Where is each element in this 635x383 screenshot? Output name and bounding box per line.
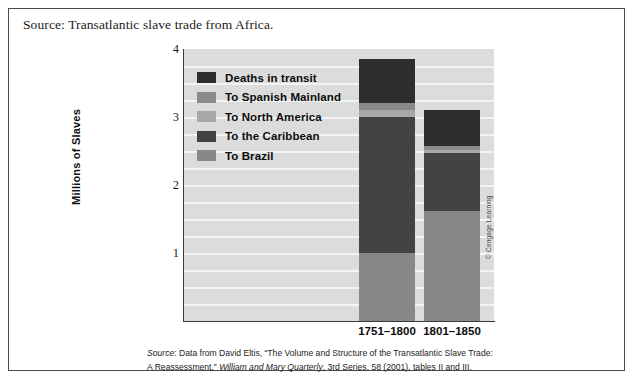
chart-legend: Deaths in transitTo Spanish MainlandTo N… bbox=[197, 68, 367, 166]
legend-item: Deaths in transit bbox=[197, 68, 367, 88]
legend-label: To Spanish Mainland bbox=[225, 91, 341, 103]
figure-frame: Source: Transatlantic slave trade from A… bbox=[8, 8, 625, 371]
y-axis-title: Millions of Slaves bbox=[70, 77, 82, 237]
bar-segment bbox=[359, 110, 415, 117]
footnote-line-1: Source: Data from David Eltis, “The Volu… bbox=[147, 346, 567, 360]
bar-segment bbox=[424, 110, 480, 146]
footnote-line-1-text: : Data from David Eltis, “The Volume and… bbox=[174, 348, 493, 358]
legend-label: Deaths in transit bbox=[225, 72, 317, 84]
legend-swatch-icon bbox=[197, 72, 216, 83]
legend-item: To the Caribbean bbox=[197, 127, 367, 147]
y-axis-tick-labels: 4321 bbox=[155, 9, 179, 383]
figure-footnote: Source: Data from David Eltis, “The Volu… bbox=[147, 346, 567, 374]
legend-swatch-icon bbox=[197, 150, 216, 161]
y-axis-line bbox=[183, 49, 184, 322]
y-tick-label: 2 bbox=[157, 178, 179, 193]
legend-swatch-icon bbox=[197, 111, 216, 122]
x-axis-line bbox=[183, 321, 495, 322]
bar-segment bbox=[424, 153, 480, 211]
bar-segment bbox=[359, 103, 415, 110]
copyright-notice: © Cengage Learning bbox=[485, 195, 492, 259]
legend-swatch-icon bbox=[197, 92, 216, 103]
legend-label: To the Caribbean bbox=[225, 130, 320, 142]
footnote-line-2-post: , 3rd Series, 58 (2001), tables II and I… bbox=[323, 362, 472, 372]
bar-segment bbox=[424, 211, 480, 321]
bar-group bbox=[424, 110, 480, 321]
y-tick-label: 1 bbox=[157, 246, 179, 261]
legend-item: To Spanish Mainland bbox=[197, 88, 367, 108]
bar-segment bbox=[359, 117, 415, 253]
footnote-line-2: A Reassessment,” William and Mary Quarte… bbox=[147, 360, 567, 374]
x-tick-label: 1801–1850 bbox=[407, 325, 497, 337]
bar-segment bbox=[359, 253, 415, 321]
legend-item: To North America bbox=[197, 107, 367, 127]
y-tick-label: 4 bbox=[157, 42, 179, 57]
bar-segment bbox=[359, 59, 415, 103]
legend-label: To Brazil bbox=[225, 150, 274, 162]
legend-label: To North America bbox=[225, 111, 322, 123]
legend-swatch-icon bbox=[197, 131, 216, 142]
footnote-journal-title: William and Mary Quarterly bbox=[219, 362, 323, 372]
legend-item: To Brazil bbox=[197, 146, 367, 166]
bar-group bbox=[359, 59, 415, 321]
footnote-source-label: Source bbox=[147, 348, 174, 358]
y-tick-label: 3 bbox=[157, 110, 179, 125]
figure-caption: Source: Transatlantic slave trade from A… bbox=[23, 17, 274, 33]
footnote-line-2-pre: A Reassessment,” bbox=[147, 362, 219, 372]
